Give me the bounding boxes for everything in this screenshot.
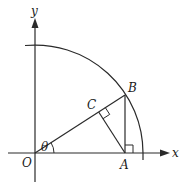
x-axis-label: x bbox=[172, 146, 179, 160]
point-O-label: O bbox=[22, 156, 32, 170]
x-axis bbox=[8, 150, 170, 157]
right-angle-marker-C bbox=[103, 108, 110, 119]
y-axis-label: y bbox=[30, 4, 38, 18]
right-angle-marker-A bbox=[125, 145, 133, 153]
geometry-diagram: x y θ O A B C bbox=[0, 0, 186, 190]
segment-OB bbox=[35, 95, 125, 153]
point-A-label: A bbox=[119, 158, 129, 172]
point-B-label: B bbox=[127, 81, 137, 95]
point-C-label: C bbox=[87, 98, 96, 112]
x-axis-arrow-icon bbox=[160, 150, 170, 157]
segment-AC bbox=[99, 112, 125, 153]
y-axis bbox=[32, 18, 39, 182]
angle-theta-arc bbox=[51, 143, 54, 153]
y-axis-arrow-icon bbox=[32, 18, 39, 28]
angle-theta-label: θ bbox=[41, 140, 49, 154]
